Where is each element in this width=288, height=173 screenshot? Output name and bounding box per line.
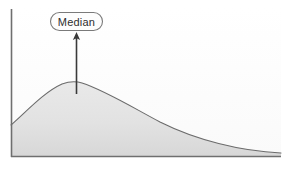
median-callout-label: Median	[58, 16, 95, 28]
chart-canvas: Median	[0, 0, 288, 173]
distribution-figure: Median	[0, 0, 288, 173]
